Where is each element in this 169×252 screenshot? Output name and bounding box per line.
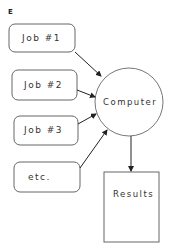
arrow-job1-computer <box>75 52 101 76</box>
results-label: Results <box>113 189 154 199</box>
panel-label: E <box>8 8 13 16</box>
arrow-job2-computer <box>77 90 95 97</box>
etc-label: etc. <box>28 172 51 182</box>
job-2-label: Job #2 <box>24 80 63 90</box>
job-1-label: Job #1 <box>22 33 61 43</box>
job-3-label: Job #3 <box>24 125 63 135</box>
arrow-job3-computer <box>78 114 96 124</box>
results-box <box>104 172 159 242</box>
arrow-etc-computer <box>80 130 107 168</box>
computer-label: Computer <box>103 97 157 107</box>
